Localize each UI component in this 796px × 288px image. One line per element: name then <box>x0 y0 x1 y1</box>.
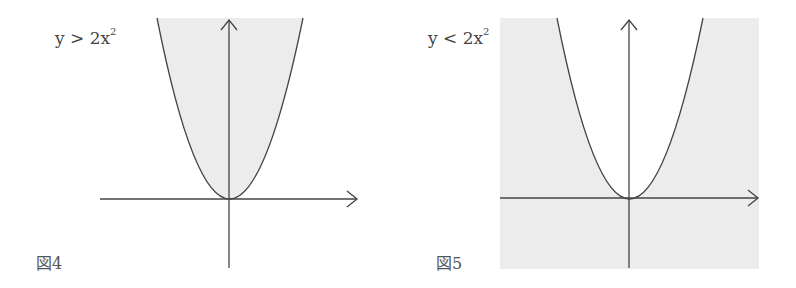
figure-5-graph <box>500 18 759 269</box>
figure-4-graph <box>100 18 357 268</box>
figure-caption-5: 図5 <box>436 250 462 274</box>
inequality-rhs: 2x <box>463 28 483 48</box>
inequality-lhs: y <box>55 28 65 48</box>
inequality-label-fig5: y < 2x2 <box>428 28 489 48</box>
inequality-exponent: 2 <box>110 26 116 37</box>
inequality-exponent: 2 <box>483 26 489 37</box>
inequality-lhs: y <box>428 28 438 48</box>
inequality-label-fig4: y > 2x2 <box>55 28 116 48</box>
diagram-canvas <box>0 0 796 288</box>
inequality-operator: > <box>70 28 84 48</box>
inequality-rhs: 2x <box>90 28 110 48</box>
inequality-operator: < <box>443 28 457 48</box>
figure-caption-4: 図4 <box>36 250 62 274</box>
